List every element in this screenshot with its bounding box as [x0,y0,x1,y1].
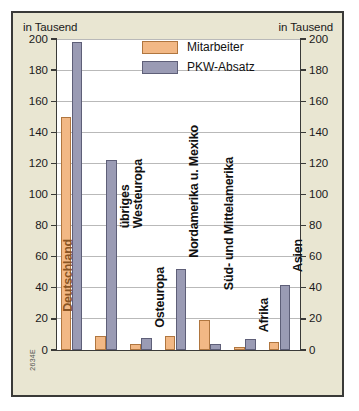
y-axis-tick-label-left: 40 [35,282,48,294]
y-axis-unit-left: in Tausend [23,21,77,33]
axis-tick [51,318,57,319]
y-axis-tick-label-right: 160 [309,96,328,108]
category-label: Asien [292,239,305,272]
legend-label-pkw-absatz: PKW-Absatz [187,60,255,74]
axis-tick [51,349,57,350]
axis-tick [51,256,57,257]
source-code-label: 2634E [29,349,36,371]
axis-tick [300,69,306,70]
legend-swatch-mitarbeiter [142,41,178,54]
y-axis-tick-label-right: 100 [309,189,328,201]
bar-mitarbeiter [234,347,245,350]
axis-tick [300,349,306,350]
chart-legend: Mitarbeiter PKW-Absatz [142,40,255,80]
y-axis-tick-label-right: 60 [309,251,322,263]
category-label: Deutschland [62,239,75,312]
y-axis-tick-label-right: 200 [309,34,328,46]
axis-tick [51,194,57,195]
gridline [57,101,300,102]
gridline [57,132,300,133]
y-axis-tick-label-right: 20 [309,313,322,325]
axis-tick [300,287,306,288]
y-axis-tick-label-left: 120 [29,158,48,170]
bar-pkw-absatz [245,339,256,350]
y-axis-tick-label-left: 0 [42,345,48,357]
chart-figure: in Tausend in Tausend 2634E 002020404060… [11,11,344,397]
y-axis-tick-label-right: 0 [309,345,315,357]
category-label: übriges Westeuropa [119,159,145,228]
y-axis-tick-label-right: 40 [309,282,322,294]
category-label: Nordamerika u. Mexiko [188,125,201,258]
bar-pkw-absatz [280,285,291,350]
y-axis-tick-label-left: 200 [29,34,48,46]
axis-tick [300,132,306,133]
y-axis-tick-label-left: 20 [35,313,48,325]
y-axis-tick-label-right: 140 [309,127,328,139]
y-axis-tick-label-right: 80 [309,220,322,232]
axis-tick [51,101,57,102]
category-label: Afrika [258,298,271,332]
bar-mitarbeiter [199,320,210,350]
axis-tick [300,163,306,164]
legend-label-mitarbeiter: Mitarbeiter [187,40,244,54]
y-axis-unit-right: in Tausend [279,21,333,33]
axis-tick [51,69,57,70]
axis-tick [300,194,306,195]
bar-mitarbeiter [61,117,72,350]
y-axis-tick-label-left: 100 [29,189,48,201]
y-axis-tick-label-left: 160 [29,96,48,108]
bar-mitarbeiter [130,344,141,350]
gridline [57,225,300,226]
y-axis-tick-label-left: 140 [29,127,48,139]
category-label: Süd- und Mittelamerika [223,157,236,290]
axis-tick [300,101,306,102]
y-axis-tick-label-left: 180 [29,65,48,77]
bar-mitarbeiter [269,342,280,350]
bar-mitarbeiter [95,336,106,350]
plot-area: 0020204040606080801001001201201401401601… [56,39,301,351]
legend-item-pkw-absatz: PKW-Absatz [142,60,255,74]
axis-tick [300,38,306,39]
bar-pkw-absatz [141,338,152,350]
axis-tick [51,163,57,164]
bar-pkw-absatz [176,269,187,350]
axis-tick [300,318,306,319]
legend-swatch-pkw-absatz [142,61,178,74]
axis-tick [51,38,57,39]
y-axis-tick-label-left: 80 [35,220,48,232]
gridline [57,256,300,257]
bar-pkw-absatz [106,160,117,350]
axis-tick [51,225,57,226]
y-axis-tick-label-left: 60 [35,251,48,263]
axis-tick [51,132,57,133]
axis-tick [300,225,306,226]
axis-tick [51,287,57,288]
bar-mitarbeiter [165,336,176,350]
y-axis-tick-label-right: 180 [309,65,328,77]
y-axis-tick-label-right: 120 [309,158,328,170]
category-label: Osteuropa [154,267,167,328]
legend-item-mitarbeiter: Mitarbeiter [142,40,255,54]
gridline [57,194,300,195]
bar-pkw-absatz [210,344,221,350]
gridline [57,163,300,164]
